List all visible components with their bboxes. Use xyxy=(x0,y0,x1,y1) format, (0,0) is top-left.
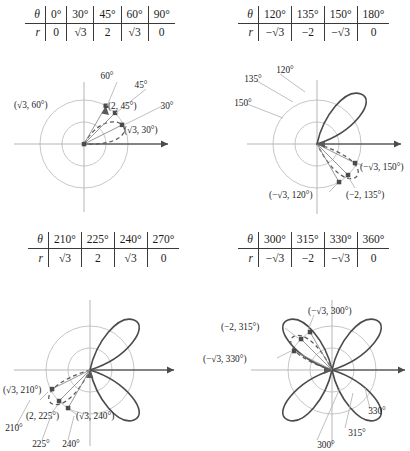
data-point-neg-sqrt3-330 xyxy=(292,348,297,353)
theta-cell: 60° xyxy=(121,6,148,23)
data-point-neg2-135 xyxy=(346,173,351,178)
row-header-r: r xyxy=(238,249,259,267)
angle-label-300: 300° xyxy=(317,440,335,450)
panel-3: θ 210° 225° 240° 270° r √3 2 √3 0 xyxy=(0,226,205,451)
panel-3-table: θ 210° 225° 240° 270° r √3 2 √3 0 xyxy=(28,232,179,267)
leader-pt-315 xyxy=(285,328,298,338)
theta-cell: 330° xyxy=(324,232,357,249)
angle-label-150: 150° xyxy=(234,98,252,108)
row-header-r: r xyxy=(238,23,259,41)
table-row-theta: θ 210° 225° 240° 270° xyxy=(28,232,179,249)
theta-cell: 210° xyxy=(49,232,82,249)
data-point-neg-sqrt3-300 xyxy=(308,329,313,334)
point-label-sqrt3-60: (√3, 60°) xyxy=(14,100,48,111)
point-label-neg-sqrt3-150: (−√3, 150°) xyxy=(360,162,404,173)
leader-150deg xyxy=(247,104,283,118)
axis-arrow-icon xyxy=(394,141,401,148)
theta-cell: 135° xyxy=(291,6,324,23)
theta-cell: 0° xyxy=(46,6,67,23)
value-table: θ 120° 135° 150° 180° r −√3 −2 −√3 0 xyxy=(238,6,389,41)
panel-1-table: θ 0° 30° 45° 60° 90° r 0 √3 2 √3 0 xyxy=(25,6,175,41)
point-label-neg-sqrt3-300: (−√3, 300°) xyxy=(308,306,352,317)
table-row-r: r −√3 −2 −√3 0 xyxy=(238,23,389,41)
r-cell: −√3 xyxy=(324,23,357,41)
angle-label-210: 210° xyxy=(5,423,23,433)
theta-cell: 240° xyxy=(114,232,147,249)
theta-cell: 360° xyxy=(357,232,389,249)
point-label-neg-sqrt3-330: (−√3, 330°) xyxy=(203,354,247,365)
r-cell: 0 xyxy=(357,23,389,41)
panel-4: θ 300° 315° 330° 360° r −√3 −2 −√3 0 xyxy=(205,226,410,451)
data-point-sqrt3-210 xyxy=(50,386,55,391)
panel-4-table: θ 300° 315° 330° 360° r −√3 −2 −√3 0 xyxy=(238,232,389,267)
r-cell: 0 xyxy=(147,249,179,267)
angle-label-60: 60° xyxy=(100,71,113,81)
leader-135deg xyxy=(257,81,293,102)
leader-pt-330 xyxy=(277,351,291,358)
r-cell: −2 xyxy=(291,23,324,41)
row-header-theta: θ xyxy=(238,232,259,249)
panel-3-polar-plot: (√3, 210°) (2, 225°) (√3, 240°) 210° 225… xyxy=(0,288,205,451)
leader-pt-300 xyxy=(308,315,314,330)
table-row-r: r −√3 −2 −√3 0 xyxy=(238,249,389,267)
theta-cell: 90° xyxy=(148,6,175,23)
theta-cell: 45° xyxy=(94,6,121,23)
panel-1: θ 0° 30° 45° 60° 90° r 0 √3 2 √3 0 xyxy=(0,0,205,226)
theta-cell: 150° xyxy=(324,6,357,23)
axis-arrow-icon xyxy=(167,366,174,373)
row-header-theta: θ xyxy=(28,232,49,249)
leader-pt-135 xyxy=(349,178,355,188)
axis-arrow-icon xyxy=(398,366,405,373)
point-label-sqrt3-240: (√3, 240°) xyxy=(76,411,114,422)
panel-4-polar-plot: (−√3, 300°) (−2, 315°) (−√3, 330°) 300° … xyxy=(205,288,410,451)
angle-label-240: 240° xyxy=(62,439,80,449)
r-cell: √3 xyxy=(114,249,147,267)
angle-label-135: 135° xyxy=(244,74,262,84)
row-header-theta: θ xyxy=(238,6,259,23)
theta-cell: 225° xyxy=(81,232,114,249)
data-point-neg-sqrt3-150 xyxy=(353,161,358,166)
data-point-neg-sqrt3-120 xyxy=(337,180,342,185)
leader-240deg xyxy=(68,416,74,440)
panel-1-polar-plot: 60° 45° 30° (√3, 60°) (2, 45°) (√3, 30°) xyxy=(0,62,205,222)
row-header-r: r xyxy=(25,23,46,41)
r-cell: 0 xyxy=(46,23,67,41)
point-label-sqrt3-30: (√3, 30°) xyxy=(124,125,158,136)
data-point-2-225 xyxy=(57,398,62,403)
value-table: θ 0° 30° 45° 60° 90° r 0 √3 2 √3 0 xyxy=(25,6,175,41)
axis-arrow-icon xyxy=(161,141,168,148)
data-point-sqrt3-240 xyxy=(66,405,71,410)
r-cell: 2 xyxy=(81,249,114,267)
theta-cell: 270° xyxy=(147,232,179,249)
r-cell: −√3 xyxy=(259,249,292,267)
r-cell: √3 xyxy=(67,23,94,41)
angle-label-30: 30° xyxy=(160,101,173,111)
table-row-theta: θ 300° 315° 330° 360° xyxy=(238,232,389,249)
point-label-2-45: (2, 45°) xyxy=(108,101,137,112)
row-header-r: r xyxy=(28,249,49,267)
theta-cell: 315° xyxy=(291,232,324,249)
point-label-2-225: (2, 225°) xyxy=(26,411,59,422)
value-table: θ 300° 315° 330° 360° r −√3 −2 −√3 0 xyxy=(238,232,389,267)
theta-cell: 300° xyxy=(259,232,292,249)
angle-label-315: 315° xyxy=(348,428,366,438)
theta-cell: 120° xyxy=(259,6,292,23)
r-cell: −√3 xyxy=(324,249,357,267)
r-cell: 0 xyxy=(148,23,175,41)
value-table: θ 210° 225° 240° 270° r √3 2 √3 0 xyxy=(28,232,179,267)
angle-label-330: 330° xyxy=(368,406,386,416)
point-label-neg2-135: (−2, 135°) xyxy=(346,190,384,201)
theta-cell: 180° xyxy=(357,6,389,23)
leader-120deg xyxy=(280,74,305,92)
panel-2-polar-plot: 120° 135° 150° (−√3, 150°) (−2, 135°) (−… xyxy=(205,62,410,222)
table-row-theta: θ 0° 30° 45° 60° 90° xyxy=(25,6,175,23)
angle-label-120: 120° xyxy=(276,65,294,75)
r-cell: −√3 xyxy=(259,23,292,41)
row-header-theta: θ xyxy=(25,6,46,23)
theta-cell: 30° xyxy=(67,6,94,23)
angle-label-225: 225° xyxy=(32,439,50,449)
data-point-origin xyxy=(82,142,87,147)
r-cell: −2 xyxy=(291,249,324,267)
point-label-neg2-315: (−2, 315°) xyxy=(221,322,259,333)
data-point-neg2-315 xyxy=(299,336,304,341)
